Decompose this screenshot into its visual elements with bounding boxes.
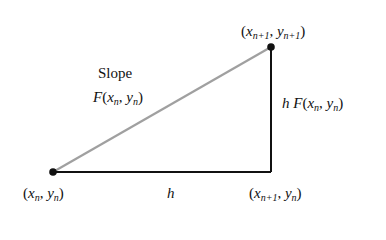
corner-point-label: (xn+1, yn) — [249, 186, 302, 201]
slope-title: Slope — [98, 66, 132, 81]
run-label-h: h — [167, 186, 175, 201]
slope-function-label: F(xn, yn) — [93, 90, 143, 105]
hypotenuse-slope-line — [53, 47, 271, 172]
start-point-label: (xn, yn) — [23, 186, 64, 201]
end-point-dot — [267, 43, 275, 51]
start-point-dot — [49, 168, 57, 176]
rise-label: h F(xn, yn) — [282, 96, 343, 111]
end-point-label: (xn+1, yn+1) — [241, 24, 305, 39]
